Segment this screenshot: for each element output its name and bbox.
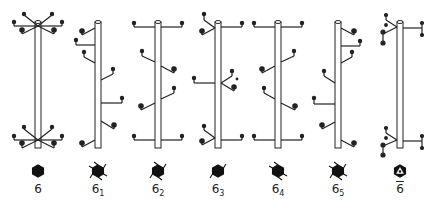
label-subscript: 2 — [159, 189, 164, 198]
axis-6-3 — [192, 12, 243, 148]
hexagon-symbol-6 — [33, 165, 44, 177]
label-6-2: 62 — [138, 182, 178, 201]
label-subscript: 4 — [279, 189, 284, 198]
label-main: 6 — [34, 182, 42, 196]
axis-6-1 — [74, 21, 123, 149]
hexad-screw-symbol-6-1 — [89, 162, 107, 180]
label-6-1: 61 — [78, 182, 118, 201]
hexad-screw-symbol-6-4 — [269, 162, 287, 180]
axis-6-2 — [132, 21, 183, 149]
label-6: 6 — [18, 182, 58, 196]
hexad-screw-symbol-6-5 — [329, 162, 347, 180]
label-6-3: 63 — [198, 182, 238, 201]
hexad-screw-symbol-6-2 — [150, 162, 166, 180]
label-6-bar: 6 — [380, 182, 420, 196]
label-6-4: 64 — [258, 182, 298, 201]
axis-6 — [12, 12, 63, 148]
label-6-5: 65 — [318, 182, 358, 201]
rotoinversion-symbol-6-bar — [395, 165, 406, 177]
symmetry-axes-diagram — [0, 0, 435, 208]
label-subscript: 5 — [339, 189, 344, 198]
label-subscript: 1 — [99, 189, 104, 198]
hexad-screw-symbol-6-3 — [210, 164, 226, 178]
label-main-overbar: 6 — [396, 182, 404, 196]
label-subscript: 3 — [219, 189, 224, 198]
axis-6-bar — [381, 14, 424, 158]
axis-6-4 — [252, 21, 303, 149]
axis-6-5 — [312, 21, 361, 149]
